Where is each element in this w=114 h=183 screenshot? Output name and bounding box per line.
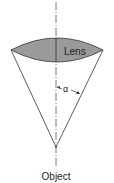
lens-label: Lens [64,46,86,57]
lens-shape [11,38,103,62]
lens-cone-diagram: Lens α Object [0,0,114,183]
object-label: Object [42,171,71,182]
object-point [55,146,57,148]
angle-arrow-right [71,90,78,93]
cone-right-edge [56,50,103,147]
angle-alpha-label: α [63,84,68,94]
cone-left-edge [11,50,56,147]
